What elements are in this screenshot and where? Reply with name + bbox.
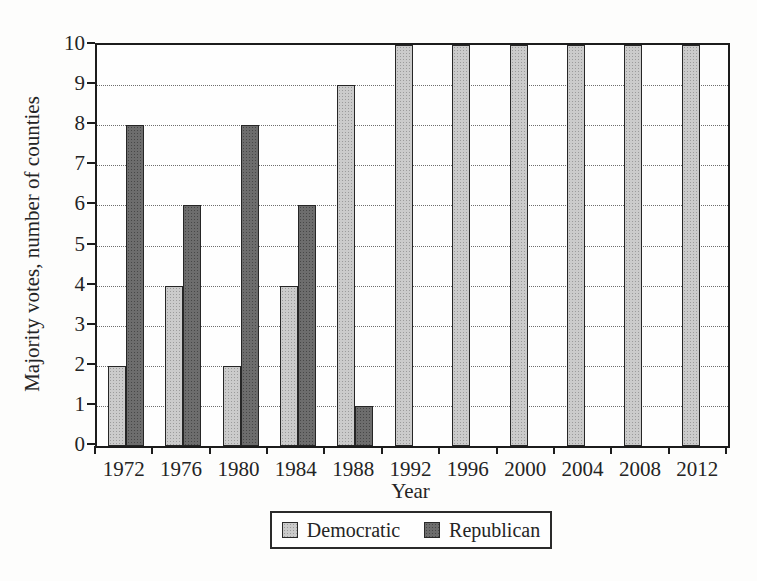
y-axis-tick — [87, 283, 95, 285]
bar-democratic-1980 — [223, 366, 241, 446]
y-axis-tick — [87, 243, 95, 245]
y-tick-label: 10 — [43, 33, 85, 54]
y-tick-label: 7 — [43, 153, 85, 174]
x-axis-tick — [151, 446, 153, 454]
x-tick-label-2012: 2012 — [662, 457, 732, 482]
bar-republican-1972 — [126, 125, 144, 446]
x-axis-tick — [209, 446, 211, 454]
y-axis-tick — [87, 82, 95, 84]
bar-democratic-1976 — [165, 286, 183, 446]
bar-democratic-2004 — [567, 45, 585, 446]
y-tick-label: 1 — [43, 393, 85, 414]
bar-democratic-1992 — [395, 45, 413, 446]
legend: Democratic Republican — [270, 511, 552, 549]
y-axis-tick — [87, 403, 95, 405]
x-axis-tick — [496, 446, 498, 454]
y-tick-label: 9 — [43, 73, 85, 94]
x-axis-tick — [323, 446, 325, 454]
x-axis-tick — [725, 446, 727, 454]
legend-item-republican: Republican — [424, 519, 540, 542]
republican-swatch-icon — [424, 522, 440, 538]
x-axis-tick — [553, 446, 555, 454]
bar-democratic-2012 — [682, 45, 700, 446]
bar-democratic-2000 — [510, 45, 528, 446]
bar-democratic-1984 — [280, 286, 298, 446]
x-axis-tick — [266, 446, 268, 454]
democratic-swatch-icon — [282, 522, 298, 538]
bar-republican-1980 — [241, 125, 259, 446]
x-axis-tick — [94, 446, 96, 454]
x-axis-tick — [438, 446, 440, 454]
bar-democratic-2008 — [624, 45, 642, 446]
y-axis-tick — [87, 323, 95, 325]
y-tick-label: 0 — [43, 434, 85, 455]
figure: Majority votes, number of counties Year … — [0, 0, 757, 581]
y-tick-label: 5 — [43, 233, 85, 254]
legend-label-democratic: Democratic — [307, 519, 400, 542]
y-tick-label: 3 — [43, 313, 85, 334]
y-axis-tick — [87, 363, 95, 365]
x-axis-tick — [610, 446, 612, 454]
plot-area — [95, 43, 730, 448]
y-axis-tick — [87, 202, 95, 204]
y-axis-tick — [87, 122, 95, 124]
y-tick-label: 4 — [43, 273, 85, 294]
bar-republican-1984 — [298, 205, 316, 446]
x-axis-tick — [381, 446, 383, 454]
y-axis-tick — [87, 42, 95, 44]
y-axis-tick — [87, 443, 95, 445]
y-tick-label: 6 — [43, 193, 85, 214]
bar-democratic-1988 — [337, 85, 355, 446]
bar-democratic-1996 — [452, 45, 470, 446]
bar-republican-1976 — [183, 205, 201, 446]
legend-item-democratic: Democratic — [282, 519, 400, 542]
x-axis-title: Year — [95, 479, 726, 504]
y-tick-label: 8 — [43, 113, 85, 134]
y-axis-title: Majority votes, number of counties — [19, 32, 45, 456]
bar-republican-1988 — [355, 406, 373, 446]
y-axis-tick — [87, 162, 95, 164]
x-axis-tick — [668, 446, 670, 454]
legend-label-republican: Republican — [449, 519, 540, 542]
y-tick-label: 2 — [43, 353, 85, 374]
bar-democratic-1972 — [108, 366, 126, 446]
